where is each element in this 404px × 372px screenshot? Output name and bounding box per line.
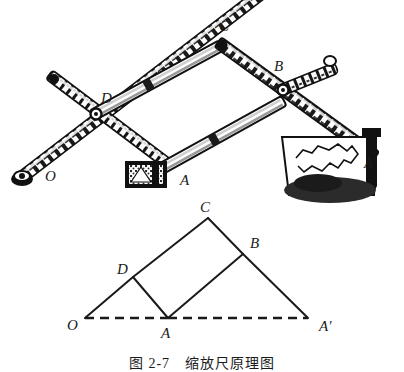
schematic-label-D: D xyxy=(117,262,128,277)
edge-C-B xyxy=(208,218,243,254)
schematic-label-B: B xyxy=(250,236,259,251)
schematic-label-C: C xyxy=(200,200,210,215)
edge-D-C xyxy=(133,218,208,277)
edge-A-B xyxy=(168,254,243,318)
schematic-label-O: O xyxy=(67,318,78,333)
schematic-label-A: A xyxy=(161,326,170,341)
edge-B-Ap xyxy=(243,254,308,318)
edge-O-D xyxy=(85,277,133,318)
schematic-label-A-prime: A′ xyxy=(319,319,331,334)
figure-container: O D C B A A′ O D C B A A′ 图 2-7 缩放尺原理图 xyxy=(0,0,404,372)
edge-D-A xyxy=(133,277,168,318)
pantograph-schematic xyxy=(0,0,404,372)
figure-caption: 图 2-7 缩放尺原理图 xyxy=(0,352,404,372)
